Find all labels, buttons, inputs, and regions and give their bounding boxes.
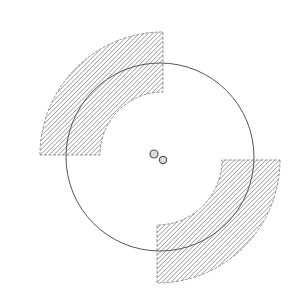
center-dot-1 bbox=[150, 150, 158, 158]
sector-bottom-right bbox=[157, 160, 280, 283]
diagram-canvas bbox=[0, 0, 308, 297]
center-dot-2 bbox=[159, 156, 166, 163]
center-dots bbox=[150, 150, 167, 164]
sector-top-left bbox=[40, 32, 163, 155]
